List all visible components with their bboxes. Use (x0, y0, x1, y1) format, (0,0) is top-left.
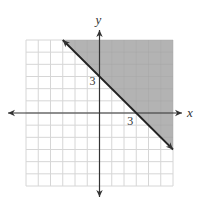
y-axis-label: y (94, 12, 102, 27)
x-intercept-label: 3 (127, 114, 133, 128)
y-intercept-label: 3 (90, 74, 96, 88)
x-axis-label: x (186, 105, 193, 120)
inequality-graph: x y 3 3 (0, 0, 199, 206)
